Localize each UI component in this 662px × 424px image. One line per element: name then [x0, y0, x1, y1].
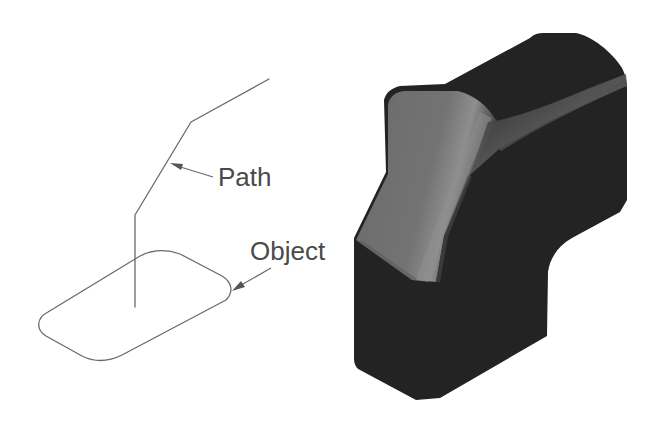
object-label: Object [250, 236, 326, 266]
path-label: Path [218, 162, 272, 192]
swept-solid [354, 33, 627, 400]
object-callout: Object [232, 236, 326, 291]
sweep-diagram: Path Object [0, 0, 662, 424]
path-callout: Path [170, 162, 272, 192]
path-arrowhead-icon [170, 163, 183, 170]
object-arrowhead-icon [232, 281, 245, 291]
path-wireframe [135, 79, 269, 307]
sweep-path-line [135, 79, 269, 307]
